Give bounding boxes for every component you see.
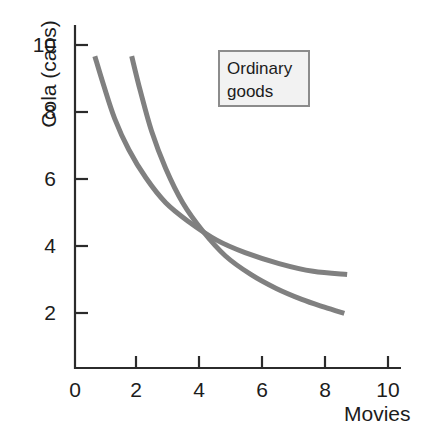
x-axis-ticks [136,356,388,368]
legend-label-line-2: goods [227,80,308,103]
x-tick-label-8: 8 [307,378,343,402]
x-tick-label-6: 6 [244,378,280,402]
y-tick-label-4: 4 [22,234,56,258]
x-axis-title: Movies [344,402,411,426]
y-tick-label-2: 2 [22,301,56,325]
x-tick-label-2: 2 [118,378,154,402]
x-tick-label-10: 10 [370,378,406,402]
y-axis-title: Cola (cans) [37,0,61,154]
y-axis-ticks [75,45,88,313]
ordinary-goods-legend-box: Ordinary goods [218,50,310,107]
legend-label-line-1: Ordinary [227,57,308,80]
x-tick-label-0: 0 [57,378,93,402]
y-tick-label-6: 6 [22,167,56,191]
x-tick-label-4: 4 [181,378,217,402]
indifference-curve-chart: 10 8 6 4 2 0 2 4 6 8 10 Cola (cans) Movi… [0,0,436,448]
